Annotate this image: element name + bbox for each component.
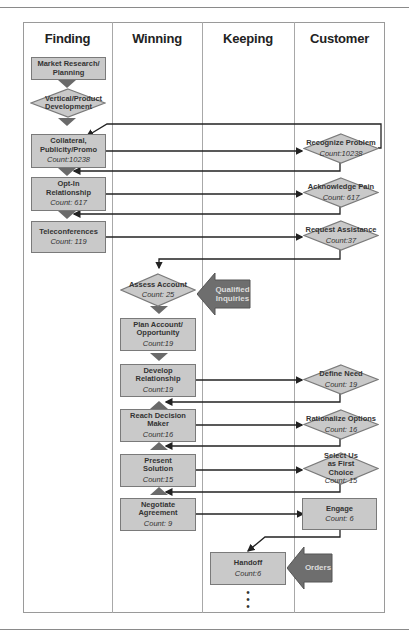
develop-relationship-count: Count:19	[143, 386, 173, 395]
reach-decision-maker-box: Reach Decision Maker Count:16	[120, 409, 196, 442]
negotiate-agreement-box: Negotiate Agreement Count: 9	[120, 498, 196, 531]
continuation-dots: •••	[240, 589, 256, 610]
acknowledge-pain-label: Acknowledge Pain	[308, 183, 374, 192]
handoff-label: Handoff	[234, 559, 262, 568]
reach-decision-maker-count: Count:16	[143, 431, 173, 440]
qualified-inquiries-callout: Qualified Inquiries	[197, 273, 251, 315]
lane-title-finding: Finding	[23, 31, 112, 46]
rationalize-options-diamond: Rationalize Options Count: 16	[303, 409, 379, 440]
plan-account-count: Count:19	[143, 340, 173, 349]
orders-label: Orders	[304, 563, 332, 572]
plan-account-box: Plan Account/ Opportunity Count:19	[120, 318, 196, 351]
qualified-inquiries-label: Qualified Inquiries	[215, 285, 250, 303]
teleconferences-count: Count: 119	[50, 238, 86, 247]
lane-title-keeping: Keeping	[202, 31, 294, 46]
collateral-count: Count:10238	[47, 156, 90, 165]
recognize-problem-label: Recognize Problem	[306, 139, 376, 148]
select-us-diamond: Select Us as First Choice Count: 15	[303, 452, 379, 485]
request-assistance-count: Count:37	[326, 237, 356, 246]
select-us-count: Count: 15	[325, 477, 358, 486]
negotiate-agreement-count: Count: 9	[144, 520, 172, 529]
reach-decision-maker-label: Reach Decision Maker	[130, 412, 186, 429]
develop-relationship-box: Develop Relationship Count:19	[120, 364, 196, 397]
lane-divider	[112, 22, 113, 613]
present-solution-count: Count:15	[143, 476, 173, 485]
plan-account-label: Plan Account/ Opportunity	[130, 321, 186, 338]
vertical-product-diamond: Vertical/Product Development	[30, 88, 106, 118]
opt-in-box: Opt-In Relationship Count: 617	[31, 177, 106, 211]
assess-account-label: Assess Account	[129, 281, 187, 290]
engage-box: Engage Count: 6	[302, 498, 377, 530]
lane-divider	[202, 22, 203, 613]
assess-account-count: Count: 25	[142, 291, 175, 300]
teleconferences-label: Teleconferences	[39, 228, 98, 237]
request-assistance-label: Request Assistance	[305, 226, 376, 235]
acknowledge-pain-diamond: Acknowledge Pain Count: 617	[303, 177, 379, 208]
collateral-box: Collateral, Publicity/Promo Count:10238	[31, 134, 106, 168]
define-need-count: Count: 19	[325, 381, 358, 390]
engage-count: Count: 6	[325, 515, 353, 524]
teleconferences-box: Teleconferences Count: 119	[31, 221, 106, 253]
rationalize-options-label: Rationalize Options	[306, 415, 376, 424]
present-solution-box: Present Solution Count:15	[120, 454, 196, 487]
select-us-label: Select Us as First Choice	[319, 452, 363, 478]
lane-divider	[294, 22, 295, 613]
opt-in-count: Count: 617	[50, 199, 87, 208]
opt-in-label: Opt-In Relationship	[45, 180, 93, 197]
recognize-problem-diamond: Recognize Problem Count:10238	[303, 133, 379, 164]
bottom-rule	[0, 629, 409, 630]
collateral-label: Collateral, Publicity/Promo	[32, 137, 105, 154]
assess-account-diamond: Assess Account Count: 25	[120, 273, 196, 307]
define-need-diamond: Define Need Count: 19	[303, 364, 379, 395]
lane-title-winning: Winning	[112, 31, 202, 46]
negotiate-agreement-label: Negotiate Agreement	[135, 501, 181, 518]
market-research-label: Market Research/ Planning	[32, 60, 105, 77]
recognize-problem-count: Count:10238	[320, 150, 363, 159]
define-need-label: Define Need	[319, 370, 362, 379]
request-assistance-diamond: Request Assistance Count:37	[303, 220, 379, 251]
lane-title-customer: Customer	[294, 31, 385, 46]
vertical-product-label: Vertical/Product Development	[45, 95, 91, 112]
market-research-box: Market Research/ Planning	[31, 57, 106, 80]
top-rule	[0, 7, 409, 8]
rationalize-options-count: Count: 16	[325, 426, 358, 435]
acknowledge-pain-count: Count: 617	[323, 194, 360, 203]
orders-callout: Orders	[287, 547, 333, 589]
handoff-box: Handoff Count:6	[210, 552, 286, 585]
handoff-count: Count:6	[235, 570, 261, 579]
engage-label: Engage	[326, 505, 353, 514]
develop-relationship-label: Develop Relationship	[133, 367, 183, 384]
present-solution-label: Present Solution	[138, 457, 178, 474]
